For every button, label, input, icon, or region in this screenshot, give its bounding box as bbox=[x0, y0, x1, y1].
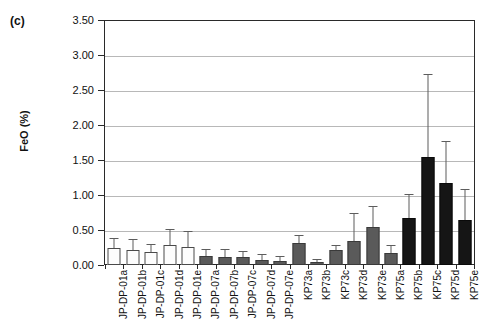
error-bar bbox=[409, 195, 410, 217]
x-tick-label: JP-DP-07e bbox=[284, 270, 295, 319]
bar bbox=[182, 247, 195, 265]
x-tick-label: JP-DP-07a bbox=[210, 270, 221, 319]
bar-group bbox=[142, 21, 160, 265]
error-bar-cap bbox=[423, 74, 432, 75]
error-bar bbox=[243, 252, 244, 258]
y-axis-tick-labels: 0.000.501.001.502.002.503.003.50 bbox=[0, 0, 104, 286]
error-bar-cap bbox=[147, 244, 156, 245]
error-bar bbox=[261, 255, 262, 260]
error-bar bbox=[114, 239, 115, 248]
error-bar-cap bbox=[331, 245, 340, 246]
x-tick-label: JP-DP-07b bbox=[229, 270, 240, 319]
x-tick-label: KP73b bbox=[321, 270, 332, 300]
error-bar-cap bbox=[257, 254, 266, 255]
error-bar bbox=[390, 246, 391, 253]
x-tick-mark bbox=[474, 265, 475, 269]
x-tick-mark bbox=[456, 265, 457, 269]
x-tick-mark bbox=[234, 265, 235, 269]
x-tick-mark bbox=[382, 265, 383, 269]
x-tick-mark bbox=[253, 265, 254, 269]
bar bbox=[218, 257, 231, 265]
x-tick-label: KP75d bbox=[450, 270, 461, 300]
y-tick-label: 3.50 bbox=[73, 14, 94, 26]
x-tick-label: KP75c bbox=[432, 270, 443, 299]
error-bar bbox=[372, 207, 373, 227]
x-tick-mark bbox=[197, 265, 198, 269]
error-bar bbox=[206, 250, 207, 256]
x-tick-label: JP-DP-07c bbox=[247, 270, 258, 318]
bar-group bbox=[419, 21, 437, 265]
x-tick-label: KP73a bbox=[303, 270, 314, 300]
x-tick-label: KP73d bbox=[358, 270, 369, 300]
y-tick-label: 1.50 bbox=[73, 154, 94, 166]
error-bar-cap bbox=[165, 229, 174, 230]
x-tick-mark bbox=[123, 265, 124, 269]
x-tick-label: KP73c bbox=[340, 270, 351, 299]
x-tick-mark bbox=[179, 265, 180, 269]
error-bar bbox=[224, 250, 225, 256]
y-tick-label: 0.00 bbox=[73, 259, 94, 271]
error-bar bbox=[132, 240, 133, 250]
y-tick-label: 0.50 bbox=[73, 224, 94, 236]
error-bar bbox=[464, 190, 465, 219]
x-tick-mark bbox=[400, 265, 401, 269]
bar bbox=[421, 157, 434, 265]
error-bar bbox=[317, 260, 318, 262]
bar bbox=[403, 218, 416, 265]
bar-group bbox=[382, 21, 400, 265]
error-bar-cap bbox=[313, 259, 322, 260]
bar-group bbox=[400, 21, 418, 265]
error-bar-cap bbox=[294, 235, 303, 236]
x-tick-label: KP75e bbox=[469, 270, 480, 300]
bar-group bbox=[345, 21, 363, 265]
error-bar-cap bbox=[460, 189, 469, 190]
error-bar bbox=[298, 236, 299, 243]
error-bar-cap bbox=[239, 251, 248, 252]
bar bbox=[440, 183, 453, 265]
x-tick-label: JP-DP-01c bbox=[155, 270, 166, 318]
error-bar-cap bbox=[442, 141, 451, 142]
bar bbox=[108, 248, 121, 265]
bar-group bbox=[363, 21, 381, 265]
x-tick-label: JP-DP-01e bbox=[192, 270, 203, 319]
bar bbox=[329, 250, 342, 265]
bar-group bbox=[456, 21, 474, 265]
error-bar bbox=[427, 75, 428, 157]
bar-group bbox=[253, 21, 271, 265]
x-tick-label: KP75a bbox=[395, 270, 406, 300]
x-tick-mark bbox=[216, 265, 217, 269]
bar bbox=[348, 241, 361, 265]
bar-group bbox=[308, 21, 326, 265]
x-tick-mark bbox=[363, 265, 364, 269]
error-bar-cap bbox=[184, 231, 193, 232]
bar-group bbox=[216, 21, 234, 265]
bar bbox=[145, 252, 158, 265]
bar bbox=[384, 253, 397, 265]
error-bar-cap bbox=[128, 239, 137, 240]
bar bbox=[200, 256, 213, 265]
error-bar bbox=[446, 142, 447, 184]
bar-group bbox=[290, 21, 308, 265]
error-bar-cap bbox=[202, 249, 211, 250]
error-bar-cap bbox=[368, 206, 377, 207]
bar-group bbox=[437, 21, 455, 265]
error-bar-cap bbox=[386, 245, 395, 246]
bar-group bbox=[234, 21, 252, 265]
bar-group bbox=[123, 21, 141, 265]
x-tick-label: JP-DP-07d bbox=[266, 270, 277, 319]
x-tick-mark bbox=[105, 265, 106, 269]
error-bar-cap bbox=[110, 238, 119, 239]
bar-group bbox=[271, 21, 289, 265]
x-tick-mark bbox=[419, 265, 420, 269]
error-bar-cap bbox=[405, 194, 414, 195]
x-tick-mark bbox=[308, 265, 309, 269]
x-tick-mark bbox=[437, 265, 438, 269]
figure-panel-c: (c) FeO (%) 0.000.501.001.502.002.503.00… bbox=[0, 0, 497, 327]
error-bar bbox=[188, 232, 189, 247]
x-axis-tick-labels: JP-DP-01aJP-DP-01bJP-DP-01cJP-DP-01dJP-D… bbox=[105, 270, 474, 327]
error-bar-cap bbox=[350, 213, 359, 214]
bar-group bbox=[197, 21, 215, 265]
error-bar bbox=[280, 257, 281, 261]
bar bbox=[237, 257, 250, 265]
bar-group bbox=[160, 21, 178, 265]
